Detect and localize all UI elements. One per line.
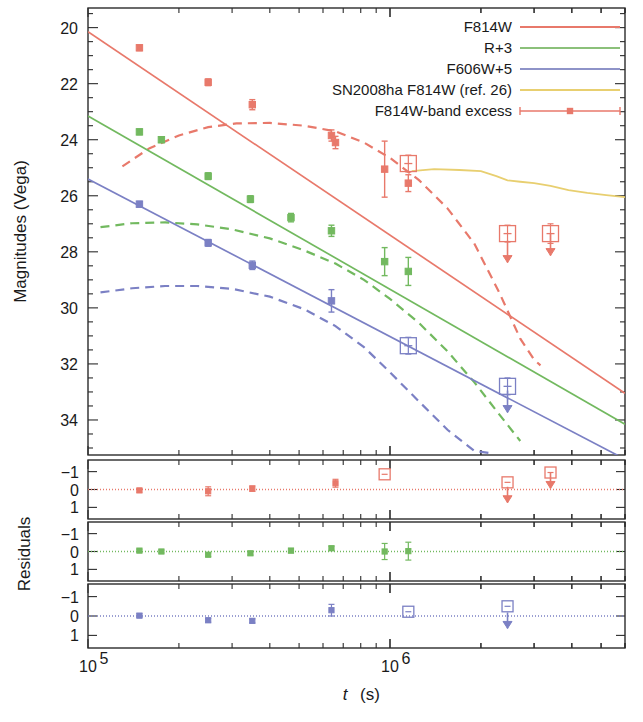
data-point-marker: [250, 618, 255, 623]
upper-limit-arrowhead: [503, 256, 512, 263]
svg-text:5: 5: [100, 650, 109, 667]
data-point-marker: [205, 79, 211, 85]
multi-panel-lightcurve-figure: 2022242628303234−101−101−101105106t (s)M…: [0, 0, 643, 722]
data-point: [136, 129, 142, 135]
residual-point: [503, 612, 512, 628]
residual-point: [136, 613, 142, 618]
legend-item[interactable]: F814W: [464, 18, 620, 35]
residual-tick-label: 1: [70, 627, 79, 644]
residual-tick-label: 1: [70, 561, 79, 578]
x-axis-tick-label: 105: [79, 650, 108, 675]
data-point-marker: [405, 180, 411, 186]
y-axis-title-residuals: Residuals: [15, 517, 34, 592]
residual-point: [247, 551, 253, 556]
svg-text:10: 10: [381, 658, 399, 675]
legend-label: F814W: [464, 18, 513, 35]
legend-item[interactable]: SN2008ha F814W (ref. 26): [332, 81, 620, 98]
legend-item[interactable]: R+3: [484, 39, 620, 56]
data-point: [249, 261, 255, 269]
data-point: [500, 225, 516, 242]
data-point-marker: [136, 129, 142, 135]
residual-point: [502, 477, 513, 488]
data-point-marker: [381, 258, 387, 264]
upper-limit-arrowhead: [546, 249, 555, 256]
data-point: [503, 241, 512, 263]
data-point-marker: [382, 549, 387, 554]
legend-item[interactable]: F814W-band excess: [375, 102, 620, 119]
x-axis-title: t (s): [343, 685, 380, 704]
residual-point: [328, 604, 334, 616]
residual-point: [502, 601, 513, 612]
residual-point: [382, 543, 388, 559]
residual-tick-label: −1: [61, 589, 79, 606]
svg-text:10: 10: [79, 658, 97, 675]
data-point-marker: [328, 132, 334, 138]
residual-tick-label: 1: [70, 499, 79, 516]
residual-point: [546, 472, 555, 488]
legend-marker: [567, 108, 573, 114]
data-point-marker: [206, 552, 211, 557]
data-point: [546, 234, 555, 256]
residual-point: [205, 487, 211, 496]
residual-point: [249, 486, 255, 491]
residual-point: [205, 618, 211, 623]
residual-tick-label: 0: [70, 608, 79, 625]
data-point: [136, 201, 142, 207]
data-point: [205, 173, 211, 180]
y-axis-tick-label: 30: [60, 300, 78, 317]
y-axis-title-main: Magnitudes (Vega): [11, 160, 30, 303]
x-axis-tick-label: 106: [381, 650, 410, 675]
fit-line-R+3: [88, 116, 625, 424]
data-point-marker: [136, 201, 142, 207]
upper-limit-arrowhead: [503, 621, 512, 628]
data-point-marker: [137, 488, 142, 493]
data-point: [205, 79, 211, 86]
data-point-marker: [288, 548, 293, 553]
data-point-marker: [328, 228, 334, 234]
y-axis-tick-label: 24: [60, 132, 78, 149]
svg-text:6: 6: [402, 650, 411, 667]
model-curve-F606W+5: [101, 286, 494, 454]
residual-point: [379, 469, 390, 480]
residual-tick-label: 0: [70, 482, 79, 499]
upper-limit-arrowhead: [503, 496, 512, 503]
residual-point: [405, 542, 411, 560]
data-point: [288, 213, 294, 221]
data-point: [381, 248, 387, 276]
data-point-marker: [158, 137, 164, 143]
data-point-marker: [206, 489, 211, 494]
residual-point: [333, 479, 339, 487]
residual-tick-label: 0: [70, 544, 79, 561]
data-point: [405, 257, 411, 285]
data-point: [328, 290, 334, 312]
svg-text:t: t: [343, 685, 349, 704]
legend-item[interactable]: F606W+5: [447, 60, 620, 77]
data-point-marker: [406, 549, 411, 554]
data-point-marker: [159, 549, 164, 554]
residual-panel-0: [88, 467, 625, 503]
data-point-marker: [247, 196, 253, 202]
legend-label: R+3: [484, 39, 512, 56]
data-point: [205, 239, 211, 246]
comparison-curve-SN2008ha F814W (ref. 26): [412, 169, 625, 197]
data-point-marker: [249, 101, 255, 107]
data-point: [247, 196, 253, 203]
model-curve-F814W: [122, 123, 540, 365]
data-point-marker: [137, 548, 142, 553]
residual-point: [249, 618, 255, 623]
data-point: [381, 141, 387, 197]
data-point: [136, 45, 142, 51]
y-axis-tick-label: 26: [60, 188, 78, 205]
data-point-marker: [136, 45, 142, 51]
model-curve-R+3: [101, 222, 521, 441]
residual-point: [205, 552, 211, 557]
data-point: [158, 137, 164, 143]
y-axis-tick-label: 28: [60, 244, 78, 261]
figure-root: 2022242628303234−101−101−101105106t (s)M…: [0, 0, 643, 722]
data-point-marker: [381, 166, 387, 172]
svg-text:(s): (s): [360, 685, 380, 704]
residual-panel-2: [88, 601, 625, 629]
data-point-marker: [205, 240, 211, 246]
y-axis-tick-label: 20: [60, 20, 78, 37]
upper-limit-arrowhead: [503, 406, 512, 413]
